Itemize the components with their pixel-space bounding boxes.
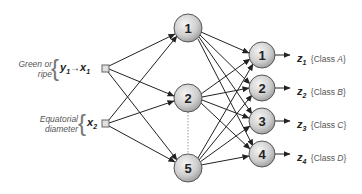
svg-text:1: 1 [184,21,191,36]
input-node-x2 [102,120,109,127]
hidden-node-1: 1 [174,14,202,42]
output-arrows [275,55,290,154]
hidden-node-5: 5 [174,154,202,182]
hidden-output-edges [198,32,253,165]
input-1-variable: y1→x1 [60,61,90,75]
output-1-label: z1 {Class A} [297,48,346,66]
output-4-label: z4 {Class D} [297,147,346,165]
svg-text:5: 5 [184,161,191,176]
output-3-label: z3 {Class C} [297,114,346,132]
output-node-4: 4 [249,141,275,167]
svg-text:1: 1 [258,48,265,63]
input-hidden-edges [108,34,177,162]
input-node-x1 [102,65,109,72]
svg-text:2: 2 [258,81,265,96]
input-2-description: Equatorial diameter [30,114,78,134]
output-node-3: 3 [249,108,275,134]
svg-text:4: 4 [258,147,266,162]
brace-icon: { [78,111,86,135]
output-node-2: 2 [249,75,275,101]
svg-text:2: 2 [184,91,191,106]
brace-icon: { [51,56,59,80]
output-node-1: 1 [249,42,275,68]
svg-text:3: 3 [258,114,265,129]
input-1-description: Green or ripe [10,59,52,79]
output-2-label: z2 {Class B} [297,81,346,99]
input-2-variable: x2 [87,116,97,130]
hidden-node-2: 2 [174,84,202,112]
